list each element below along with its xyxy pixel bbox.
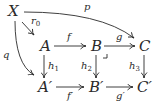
label-f: f [66,31,73,42]
label-r0: r0 [31,15,40,28]
node-B: B [90,37,102,55]
label-f-prime: f′ [66,90,74,101]
label-h3: h3 [129,60,140,73]
label-g-prime: g′ [116,90,125,101]
label-g: g [116,31,122,42]
label-h1: h1 [48,60,59,73]
label-q: q [3,49,9,60]
label-h2: h2 [81,60,92,73]
node-X: X [7,2,20,20]
arrow-q [15,21,34,75]
node-C-prime: C′ [137,78,152,96]
node-A-prime: A′ [36,78,53,96]
pullback-corner-mark [103,54,107,58]
node-C: C [139,37,151,55]
label-p: p [84,1,91,12]
node-B-prime: B′ [88,78,104,96]
node-A: A [38,37,51,55]
commutative-diagram: X A B C A′ B′ C′ p r0 q f g h1 h2 h3 f′ … [0,0,157,102]
